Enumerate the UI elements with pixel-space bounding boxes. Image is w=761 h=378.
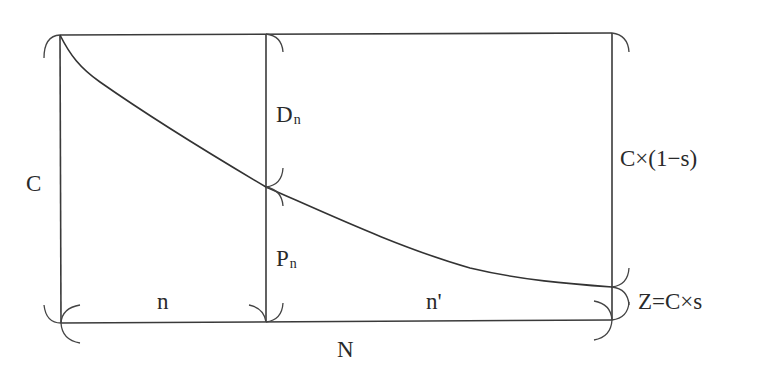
label-c-one-minus-s: C×(1−s) [620, 147, 697, 170]
left-edge [60, 35, 61, 323]
label-dn-main: D [276, 102, 293, 127]
bottom-edge [61, 320, 612, 323]
top-edge [60, 33, 612, 35]
brace-n-left [61, 305, 80, 343]
label-pn: Pn [276, 247, 297, 270]
brace-c-bottom [44, 305, 61, 323]
brace-dn-bottom [266, 168, 283, 187]
brace-c1s-bottom [612, 268, 629, 287]
brace-pn-bottom [266, 303, 283, 322]
label-pn-sub: n [290, 256, 297, 271]
label-n-total: N [337, 338, 354, 361]
decay-diagram [0, 0, 761, 378]
brace-n-right [249, 305, 266, 322]
label-pn-main: P [276, 246, 289, 271]
label-n: n [157, 290, 169, 313]
brace-z-top [612, 287, 629, 305]
label-n-prime: n' [426, 290, 442, 313]
brace-c1s-top [612, 33, 629, 52]
decay-curve [60, 35, 612, 287]
label-dn-sub: n [294, 112, 301, 127]
label-z-equals-cs: Z=C×s [638, 290, 702, 313]
brace-dn-top [266, 34, 283, 52]
brace-z-bottom [612, 302, 629, 320]
brace-c-top [44, 35, 60, 58]
label-dn: Dn [276, 103, 301, 126]
label-c: C [26, 172, 41, 195]
brace-pn-top [266, 187, 283, 206]
